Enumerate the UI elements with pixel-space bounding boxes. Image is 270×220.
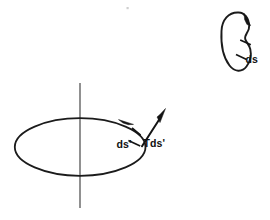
large-loop-tick-upper [132, 128, 141, 135]
figure-svg: ds ds' Tds' [0, 0, 270, 220]
scan-speck [127, 7, 129, 9]
small-loop-group: ds [221, 12, 258, 70]
large-loop-group: ds' Tds' [15, 109, 166, 176]
label-ds-prime: ds' [117, 138, 132, 150]
label-tds-prime: Tds' [144, 137, 166, 149]
small-loop-direction-arrowhead [244, 13, 251, 25]
figure-canvas: ds ds' Tds' [0, 0, 270, 220]
label-ds: ds [246, 53, 259, 65]
